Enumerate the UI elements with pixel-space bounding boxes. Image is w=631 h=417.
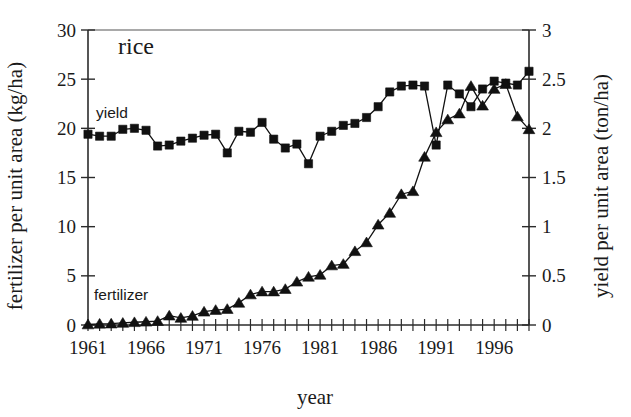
data-point-yield-1998 [513,81,521,89]
data-point-yield-1976 [258,118,266,126]
rice-fertilizer-yield-chart: 051015202530 00.511.522.53 1961196619711… [0,0,631,417]
data-point-yield-1968 [165,141,173,149]
x-axis-tick-label: 1991 [417,337,455,358]
data-point-yield-1987 [386,88,394,96]
data-point-yield-1964 [119,125,127,133]
data-point-yield-1962 [96,132,104,140]
right-axis-tick-label: 0 [542,315,552,336]
data-point-yield-1993 [455,90,463,98]
data-point-yield-1982 [328,127,336,135]
data-point-yield-1981 [316,132,324,140]
data-point-yield-1971 [200,131,208,139]
left-axis-tick-label: 15 [57,167,76,188]
data-point-yield-1966 [142,126,150,134]
data-point-yield-1961 [84,130,92,138]
right-axis-tick-label: 2.5 [542,69,566,90]
data-point-yield-1990 [420,82,428,90]
data-point-yield-1978 [281,144,289,152]
data-point-yield-1979 [293,140,301,148]
data-point-yield-1985 [362,113,370,121]
data-point-yield-1969 [177,137,185,145]
right-axis-tick-label: 2 [542,118,552,139]
left-axis-tick-label: 10 [57,216,76,237]
left-axis-tick-label: 0 [67,315,77,336]
left-axis-tick-label: 30 [57,20,76,41]
x-axis-tick-label: 1986 [359,337,397,358]
data-point-yield-1999 [525,67,533,75]
left-axis-title: fertilizer per unit area (kg/ha) [3,62,27,310]
right-axis-tick-label: 1 [542,216,552,237]
data-point-yield-1995 [478,85,486,93]
right-axis-tick-label: 1.5 [542,167,566,188]
data-point-yield-1967 [154,142,162,150]
left-axis-tick-label: 25 [57,69,76,90]
plot-title: rice [118,33,154,59]
data-point-yield-1977 [270,135,278,143]
data-point-yield-1980 [304,160,312,168]
data-point-yield-1973 [223,149,231,157]
yield-series-label: yield [96,104,128,121]
data-point-yield-1983 [339,121,347,129]
data-point-yield-1965 [130,124,138,132]
right-axis-tick-label: 0.5 [542,265,566,286]
x-axis-tick-label: 1996 [475,337,513,358]
data-point-yield-1970 [188,134,196,142]
right-axis-tick-label: 3 [542,20,552,41]
data-point-yield-1974 [235,127,243,135]
data-point-yield-1972 [212,130,220,138]
x-axis-tick-label: 1976 [243,337,281,358]
x-axis-tick-label: 1966 [127,337,165,358]
data-point-yield-1963 [107,132,115,140]
x-axis-tick-label: 1961 [69,337,107,358]
data-point-yield-1988 [397,82,405,90]
data-point-yield-1986 [374,103,382,111]
data-point-yield-1989 [409,81,417,89]
data-point-yield-1994 [467,103,475,111]
chart-figure: 051015202530 00.511.522.53 1961196619711… [0,0,631,417]
x-axis-tick-label: 1971 [185,337,223,358]
data-point-yield-1975 [246,128,254,136]
left-axis-tick-label: 20 [57,118,76,139]
data-point-yield-1992 [444,81,452,89]
fertilizer-series-label: fertilizer [94,286,148,303]
data-point-yield-1984 [351,119,359,127]
right-axis-title: yield per unit area (ton/ha) [589,74,613,298]
data-point-yield-1991 [432,141,440,149]
x-axis-tick-label: 1981 [301,337,339,358]
x-axis-title: year [297,385,333,409]
left-axis-tick-label: 5 [67,265,77,286]
